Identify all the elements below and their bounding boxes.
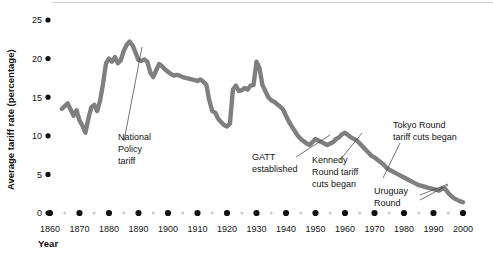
- annotation-tokyo-round: Tokyo Round tariff cuts began: [393, 120, 457, 142]
- x-tick-label: 1960: [335, 224, 355, 234]
- x-tick-label: 1980: [394, 224, 414, 234]
- annotation-line: GATT: [252, 152, 276, 162]
- x-minor-tick-dot: [93, 212, 96, 215]
- x-tick-dot: [194, 210, 200, 216]
- annotation-uruguay-round: Uruguay Round: [374, 186, 409, 208]
- x-tick-label: 1970: [364, 224, 384, 234]
- leader-national-policy-tariff: [124, 47, 142, 141]
- x-minor-tick-dot: [63, 212, 66, 215]
- annotation-line: Policy: [118, 144, 143, 154]
- annotation-line: tariff: [118, 156, 136, 166]
- x-tick-label: 2000: [453, 224, 473, 234]
- x-tick-label: 1860: [40, 224, 60, 234]
- tariff-rate-chart: 25 20 15 10 5 0 Average tariff rate (per…: [0, 0, 493, 266]
- x-minor-tick-dot: [152, 212, 155, 215]
- x-minor-tick-dot: [358, 212, 361, 215]
- x-tick-dot: [47, 210, 53, 216]
- x-tick-dot: [342, 210, 348, 216]
- x-minor-tick-dot: [299, 212, 302, 215]
- x-tick-dot: [76, 210, 82, 216]
- x-tick-dot: [253, 210, 259, 216]
- annotation-national-policy-tariff: National Policy tariff: [118, 132, 151, 166]
- y-tick-label: 5: [37, 170, 42, 180]
- y-tick-label: 20: [32, 54, 42, 64]
- x-tick-dot: [371, 210, 377, 216]
- y-tick-dot: [45, 95, 50, 100]
- x-tick-dot: [312, 210, 318, 216]
- x-minor-tick-dot: [388, 212, 391, 215]
- x-axis: 1860187018801890190019101920193019401950…: [40, 210, 473, 234]
- y-tick-dot: [45, 17, 50, 22]
- x-tick-label: 1940: [276, 224, 296, 234]
- y-tick-label: 25: [32, 15, 42, 25]
- x-minor-tick-dot: [329, 212, 332, 215]
- x-tick-label: 1950: [305, 224, 325, 234]
- x-tick-dot: [165, 210, 171, 216]
- x-minor-tick-dot: [417, 212, 420, 215]
- annotation-line: cuts began: [312, 179, 356, 189]
- x-tick-label: 1930: [246, 224, 266, 234]
- y-tick-dot: [45, 172, 50, 177]
- y-tick-label: 0: [37, 208, 42, 218]
- x-tick-label: 1880: [99, 224, 119, 234]
- x-tick-dot: [224, 210, 230, 216]
- x-minor-tick-dot: [447, 212, 450, 215]
- y-tick-label: 10: [32, 131, 42, 141]
- y-tick-dot: [45, 56, 50, 61]
- y-axis-title: Average tariff rate (percentage): [5, 49, 16, 190]
- x-axis-title: Year: [38, 238, 58, 249]
- x-tick-dot: [401, 210, 407, 216]
- x-tick-label: 1900: [158, 224, 178, 234]
- annotation-line: National: [118, 132, 151, 142]
- x-tick-label: 1890: [128, 224, 148, 234]
- annotation-line: Round tariff: [312, 167, 359, 177]
- annotation-line: tariff cuts began: [393, 132, 457, 142]
- annotation-line: Round: [374, 198, 401, 208]
- annotation-line: Kennedy: [312, 155, 348, 165]
- annotation-line: established: [252, 164, 298, 174]
- x-tick-dot: [106, 210, 112, 216]
- x-tick-dot: [283, 210, 289, 216]
- x-tick-label: 1920: [217, 224, 237, 234]
- annotation-line: Tokyo Round: [393, 120, 446, 130]
- x-minor-tick-dot: [240, 212, 243, 215]
- x-tick-label: 1910: [187, 224, 207, 234]
- y-tick-label: 15: [32, 93, 42, 103]
- x-minor-tick-dot: [181, 212, 184, 215]
- y-axis: 25 20 15 10 5 0: [32, 15, 51, 218]
- annotation-line: Uruguay: [374, 186, 409, 196]
- x-tick-label: 1990: [423, 224, 443, 234]
- annotation-kennedy-round: Kennedy Round tariff cuts began: [312, 155, 359, 189]
- x-tick-label: 1870: [69, 224, 89, 234]
- x-minor-tick-dot: [122, 212, 125, 215]
- chart-canvas: 25 20 15 10 5 0 Average tariff rate (per…: [0, 0, 493, 266]
- x-tick-dot: [135, 210, 141, 216]
- x-tick-dot: [430, 210, 436, 216]
- annotation-gatt-established: GATT established: [252, 152, 298, 174]
- x-tick-dot: [460, 210, 466, 216]
- y-tick-dot: [45, 133, 50, 138]
- x-minor-tick-dot: [211, 212, 214, 215]
- x-minor-tick-dot: [270, 212, 273, 215]
